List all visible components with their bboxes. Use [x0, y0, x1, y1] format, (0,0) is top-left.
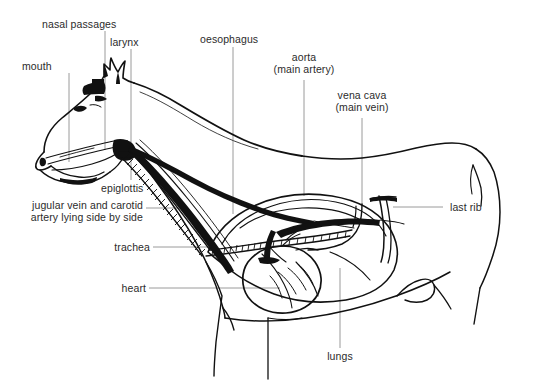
rump-outline — [476, 149, 500, 288]
ear-right-fill — [116, 72, 120, 84]
label-jugular-carotid-line2: artery lying side by side — [0, 211, 143, 224]
last-rib-bone-inner — [386, 198, 391, 263]
label-larynx: larynx — [110, 36, 139, 49]
eye-brow-line — [90, 105, 101, 107]
lower-lip-fill — [60, 177, 97, 185]
label-jugular-carotid-line1: jugular vein and carotid — [0, 199, 143, 212]
nostril — [40, 158, 47, 167]
label-last-rib: last rib — [450, 201, 482, 214]
belly-line — [225, 272, 450, 321]
oesophagus-band — [128, 146, 314, 226]
horse-anatomy-diagram: mouth nasal passages larynx oesophagus a… — [0, 0, 546, 389]
label-oesophagus: oesophagus — [200, 33, 258, 46]
trachea-group — [122, 152, 352, 262]
label-nasal-passages: nasal passages — [42, 18, 116, 31]
heart-atrium-shade — [258, 257, 280, 264]
jugular-carotid-group — [127, 140, 238, 274]
aorta-arch — [264, 230, 276, 258]
label-vena-cava-line2: (main vein) — [322, 101, 402, 114]
girth-line — [268, 318, 302, 320]
nasal-passage-lower — [48, 147, 116, 164]
label-mouth: mouth — [22, 60, 52, 73]
label-lungs: lungs — [310, 350, 370, 363]
jugular-vein-band — [127, 146, 234, 274]
back-line — [302, 143, 476, 159]
neck-crest-inner — [140, 92, 258, 149]
hind-leg-edge — [474, 288, 480, 324]
last-rib-top-fill — [370, 197, 397, 203]
label-trachea: trachea — [60, 241, 150, 254]
tail-root-inner — [471, 165, 473, 194]
heart-vessel-3 — [288, 268, 306, 290]
label-heart: heart — [60, 282, 146, 295]
label-aorta-line1: aorta — [264, 51, 344, 64]
lung-lower-lobe-line — [330, 252, 370, 280]
label-vena-cava-line1: vena cava — [322, 89, 402, 102]
label-aorta-line2: (main artery) — [264, 63, 344, 76]
label-epiglottis: epiglottis — [101, 182, 143, 195]
flank-muscle-line — [434, 285, 451, 309]
blaze-patch — [92, 79, 104, 88]
head-top-outline — [44, 58, 134, 152]
last-rib-group — [370, 196, 397, 263]
neck-crest — [134, 83, 302, 156]
tail-root — [473, 165, 482, 206]
